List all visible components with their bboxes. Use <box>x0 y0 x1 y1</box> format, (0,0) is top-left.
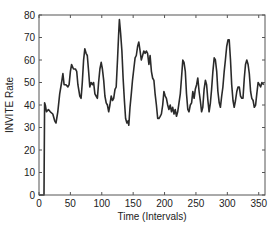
x-tick-label: 100 <box>93 198 110 209</box>
y-tick-label: 60 <box>24 55 36 66</box>
y-tick-label: 40 <box>24 100 36 111</box>
x-tick-label: 50 <box>65 198 77 209</box>
x-tick-label: 150 <box>125 198 142 209</box>
x-tick-label: 200 <box>156 198 173 209</box>
line-chart: 050100150200250300350 01020304050607080 … <box>0 0 278 230</box>
y-tick-label: 10 <box>24 167 36 178</box>
y-tick-label: 30 <box>24 122 36 133</box>
x-axis-label: Time (Intervals) <box>117 211 186 222</box>
y-axis-label: INVITE Rate <box>4 77 15 134</box>
x-tick-label: 350 <box>250 198 267 209</box>
y-tick-label: 50 <box>24 77 36 88</box>
x-tick-label: 0 <box>36 198 42 209</box>
x-tick-label: 300 <box>219 198 236 209</box>
y-tick-label: 20 <box>24 145 36 156</box>
y-tick-label: 0 <box>29 190 35 201</box>
y-tick-label: 80 <box>24 10 36 21</box>
y-tick-label: 70 <box>24 32 36 43</box>
x-tick-label: 250 <box>188 198 205 209</box>
